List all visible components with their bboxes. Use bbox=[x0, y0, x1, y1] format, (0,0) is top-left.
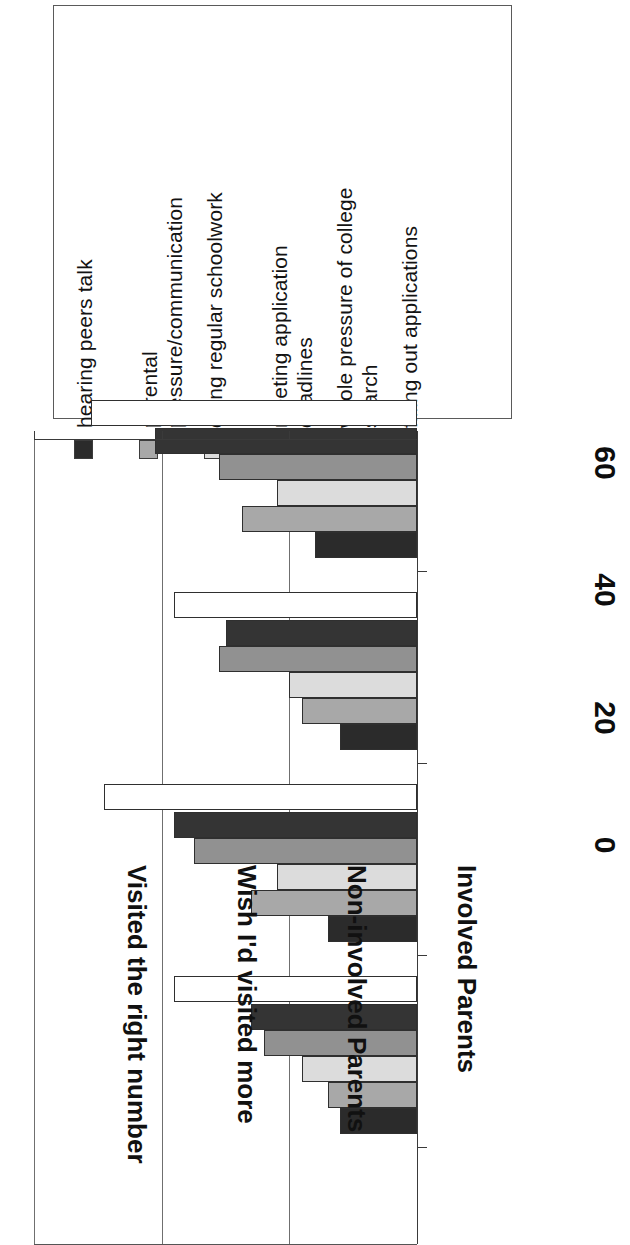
bar-whole-pressure-of-college-search[interactable] bbox=[155, 428, 417, 454]
baseline-axis bbox=[417, 439, 418, 1244]
value-tick-0 bbox=[417, 431, 418, 440]
bar-parental-pressure[interactable] bbox=[242, 506, 417, 532]
category-tick-0 bbox=[417, 1147, 427, 1148]
category-label-wish-id-visited-more: Wish I'd visited more bbox=[231, 865, 262, 1124]
bar-group-involved-parents bbox=[34, 388, 417, 558]
value-tick-60 bbox=[34, 431, 35, 440]
value-label-60: 60 bbox=[588, 433, 622, 493]
chart-rotated-content bbox=[0, 440, 630, 1245]
bar-filling-out-applications[interactable] bbox=[104, 784, 417, 810]
bar-filling-out-applications[interactable] bbox=[91, 400, 417, 426]
value-axis bbox=[34, 439, 418, 440]
category-tick-1 bbox=[417, 955, 427, 956]
bar-parental-pressure[interactable] bbox=[302, 698, 417, 724]
bar-whole-pressure-of-college-search[interactable] bbox=[226, 620, 417, 646]
bar-meeting-application-deadlines[interactable] bbox=[219, 646, 417, 672]
value-label-20: 20 bbox=[588, 688, 622, 748]
category-label-visited-the-right-number: Visited the right number bbox=[121, 865, 152, 1164]
category-tick-3 bbox=[417, 571, 427, 572]
value-label-0: 0 bbox=[588, 815, 622, 875]
bar-whole-pressure-of-college-search[interactable] bbox=[174, 812, 417, 838]
legend: hearing peers talk parental pressure/com… bbox=[53, 5, 512, 419]
bar-whole-pressure-of-college-search[interactable] bbox=[251, 1004, 417, 1030]
value-tick-20 bbox=[289, 431, 290, 440]
category-label-non-involved-parents: Non-involved Parents bbox=[341, 865, 372, 1132]
bar-doing-regular-schoolwork[interactable] bbox=[289, 672, 417, 698]
value-tick-40 bbox=[162, 431, 163, 440]
bar-parental-pressure[interactable] bbox=[251, 890, 417, 916]
value-label-40: 40 bbox=[588, 560, 622, 620]
category-tick-2 bbox=[417, 763, 427, 764]
bar-doing-regular-schoolwork[interactable] bbox=[277, 480, 417, 506]
bar-filling-out-applications[interactable] bbox=[174, 592, 417, 618]
bar-hearing-peers-talk[interactable] bbox=[315, 532, 417, 558]
bar-chart: 0 20 40 60 Visited the right number Wish… bbox=[0, 440, 630, 1245]
bar-meeting-application-deadlines[interactable] bbox=[219, 454, 417, 480]
bar-meeting-application-deadlines[interactable] bbox=[194, 838, 417, 864]
bar-hearing-peers-talk[interactable] bbox=[340, 724, 417, 750]
bar-filling-out-applications[interactable] bbox=[174, 976, 417, 1002]
bar-group-non-involved-parents bbox=[34, 580, 417, 750]
category-label-involved-parents: Involved Parents bbox=[451, 865, 482, 1073]
